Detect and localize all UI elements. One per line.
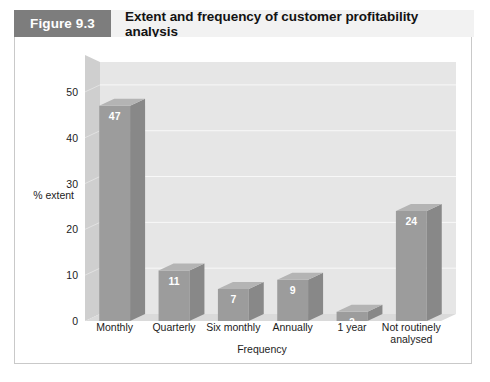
figure-root: Figure 9.3 Extent and frequency of custo… — [0, 0, 490, 382]
figure-number-box: Figure 9.3 — [14, 10, 111, 37]
figure-number-label: Figure 9.3 — [30, 16, 95, 31]
figure-title: Extent and frequency of customer profita… — [111, 10, 474, 37]
figure-header: Figure 9.3 Extent and frequency of custo… — [14, 10, 474, 37]
figure-body-frame — [14, 37, 472, 364]
